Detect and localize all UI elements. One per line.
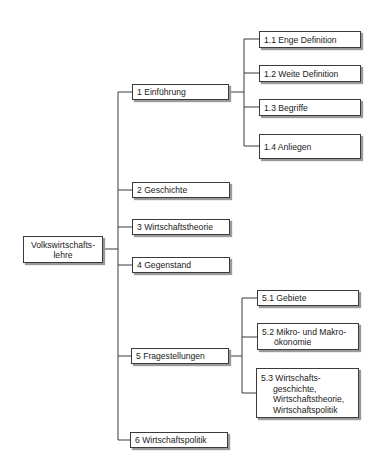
node-label: 4 Gegenstand bbox=[137, 260, 191, 270]
node-label: 5.1 Gebiete bbox=[262, 293, 306, 303]
node-5-1: 5.1 Gebiete bbox=[257, 290, 359, 306]
node-label: 1.4 Anliegen bbox=[264, 142, 311, 152]
node-label-line2: ökonomie bbox=[262, 337, 354, 347]
root-node: Volkswirtschafts- lehre bbox=[23, 236, 103, 263]
root-label-line1: Volkswirtschafts- bbox=[28, 240, 98, 250]
node-chapter-1: 1 Einführung bbox=[132, 84, 229, 100]
node-1-1: 1.1 Enge Definition bbox=[259, 31, 361, 48]
node-label: 6 Wirtschaftspolitik bbox=[135, 435, 207, 445]
node-chapter-3: 3 Wirtschaftstheorie bbox=[132, 219, 230, 235]
node-chapter-5: 5 Fragestellungen bbox=[131, 348, 229, 364]
node-label-line1: 5.2 Mikro- und Makro- bbox=[262, 327, 354, 337]
node-1-4: 1.4 Anliegen bbox=[259, 134, 361, 159]
node-label-line3: Wirtschaftstheorie, bbox=[261, 394, 354, 405]
node-chapter-6: 6 Wirtschaftspolitik bbox=[130, 432, 228, 448]
node-1-2: 1.2 Weite Definition bbox=[259, 65, 361, 82]
node-chapter-4: 4 Gegenstand bbox=[132, 257, 230, 273]
node-label: 3 Wirtschaftstheorie bbox=[137, 222, 213, 232]
node-1-3: 1.3 Begriffe bbox=[259, 99, 361, 116]
root-label-line2: lehre bbox=[28, 250, 98, 260]
node-label: 5 Fragestellungen bbox=[136, 351, 205, 361]
node-label-line2: geschichte, bbox=[261, 384, 354, 395]
node-chapter-2: 2 Geschichte bbox=[132, 182, 230, 198]
node-label: 1 Einführung bbox=[137, 87, 186, 97]
node-5-2: 5.2 Mikro- und Makro- ökonomie bbox=[257, 323, 359, 350]
node-label: 1.1 Enge Definition bbox=[264, 35, 337, 45]
tree-diagram: Volkswirtschafts- lehre 1 Einführung 2 G… bbox=[0, 0, 369, 475]
node-label-line4: Wirtschaftspolitik bbox=[261, 405, 354, 416]
node-label-line1: 5.3 Wirtschafts- bbox=[261, 373, 354, 384]
node-label: 1.3 Begriffe bbox=[264, 103, 308, 113]
node-5-3: 5.3 Wirtschafts- geschichte, Wirtschafts… bbox=[256, 368, 359, 418]
node-label: 2 Geschichte bbox=[137, 185, 187, 195]
node-label: 1.2 Weite Definition bbox=[264, 69, 338, 79]
